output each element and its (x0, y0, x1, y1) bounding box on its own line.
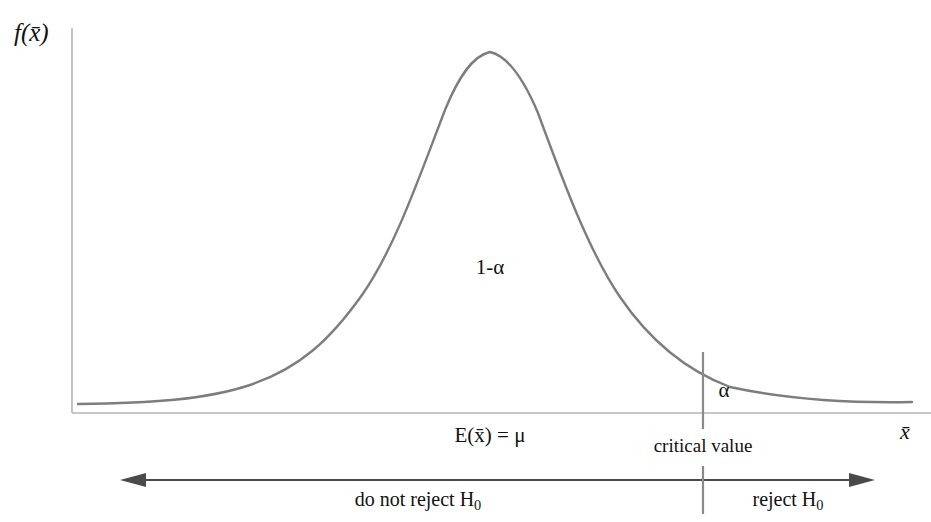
normal-density-curve (78, 52, 912, 404)
reject-label-subscript: 0 (816, 497, 823, 513)
critical-value-label: critical value (654, 436, 753, 455)
decision-arrow-right-head (849, 473, 875, 487)
reject-label-text: reject H (752, 488, 816, 510)
statistics-diagram: f(x̄) x̄ 1-α α E(x̄) = μ critical value … (0, 0, 931, 522)
do-not-reject-label: do not reject H0 (355, 489, 482, 512)
do-not-reject-label-text: do not reject H (355, 488, 474, 510)
x-axis-label: x̄ (900, 421, 910, 443)
reject-label: reject H0 (752, 489, 823, 512)
do-not-reject-label-subscript: 0 (474, 497, 481, 513)
decision-arrow-left-head (120, 473, 146, 487)
alpha-region-label: α (718, 380, 729, 401)
confidence-region-label: 1-α (476, 257, 505, 278)
mean-label: E(x̄) = μ (455, 425, 526, 446)
y-axis-label: f(x̄) (14, 20, 49, 45)
